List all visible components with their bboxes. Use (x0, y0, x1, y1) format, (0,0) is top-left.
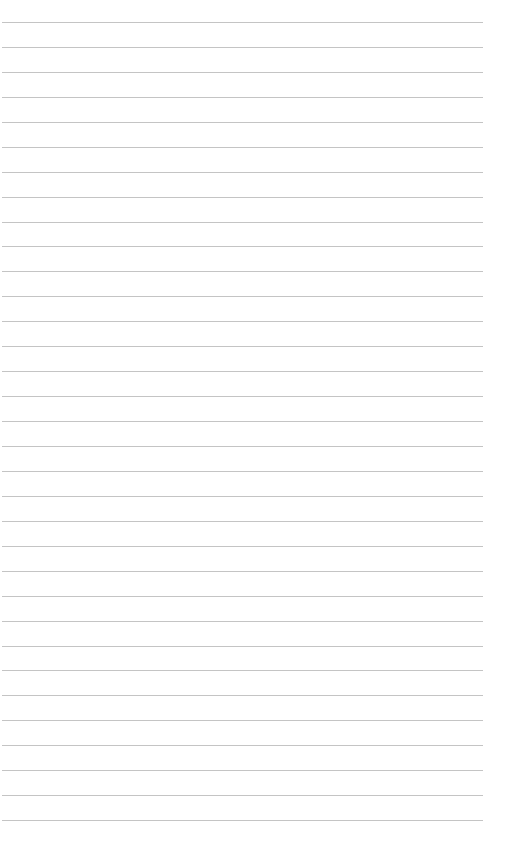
lined-paper-sheet (0, 0, 519, 867)
ruled-line (2, 670, 483, 671)
ruled-line (2, 720, 483, 721)
ruled-line (2, 446, 483, 447)
ruled-line (2, 396, 483, 397)
ruled-line (2, 820, 483, 821)
ruled-line (2, 122, 483, 123)
ruled-line (2, 521, 483, 522)
ruled-line (2, 246, 483, 247)
ruled-line (2, 321, 483, 322)
ruled-line (2, 172, 483, 173)
ruled-line (2, 197, 483, 198)
ruled-line (2, 147, 483, 148)
ruled-line (2, 97, 483, 98)
ruled-line (2, 471, 483, 472)
ruled-line (2, 296, 483, 297)
ruled-line (2, 47, 483, 48)
ruled-line (2, 571, 483, 572)
ruled-line (2, 72, 483, 73)
ruled-line (2, 621, 483, 622)
ruled-line (2, 770, 483, 771)
ruled-line (2, 546, 483, 547)
ruled-line (2, 695, 483, 696)
ruled-line (2, 271, 483, 272)
ruled-line (2, 496, 483, 497)
ruled-line (2, 371, 483, 372)
ruled-line (2, 646, 483, 647)
ruled-line (2, 22, 483, 23)
ruled-line (2, 421, 483, 422)
ruled-line (2, 222, 483, 223)
ruled-line (2, 596, 483, 597)
ruled-line (2, 745, 483, 746)
ruled-line (2, 346, 483, 347)
ruled-line (2, 795, 483, 796)
